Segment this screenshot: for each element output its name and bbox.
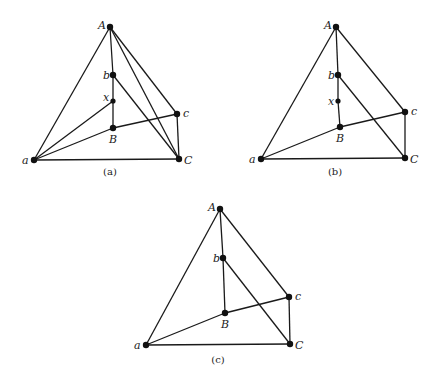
- node-c: [174, 111, 180, 117]
- edge-x-B: [338, 101, 340, 127]
- edge-A-b: [336, 27, 338, 75]
- node-label-x: x: [328, 95, 335, 108]
- edge-A-a: [146, 209, 220, 345]
- edge-b-C: [338, 75, 405, 158]
- node-C: [402, 155, 408, 161]
- node-label-c: c: [411, 105, 417, 118]
- edge-A-a: [261, 27, 336, 159]
- edge-a-B: [34, 128, 113, 160]
- node-label-a: a: [22, 154, 29, 167]
- node-a: [31, 157, 37, 163]
- diagram-panel-c: AbBcCa(c): [134, 201, 304, 365]
- node-a: [258, 156, 264, 162]
- node-B: [110, 125, 116, 131]
- panel-caption: (b): [328, 166, 342, 177]
- edge-a-B: [146, 313, 225, 345]
- node-label-B: B: [335, 132, 344, 145]
- edge-A-b: [220, 209, 223, 258]
- diagram-panel-a: AbxBcCa(a): [22, 19, 193, 177]
- node-label-B: B: [220, 318, 229, 331]
- node-B: [222, 310, 228, 316]
- node-label-c: c: [183, 107, 189, 120]
- node-label-A: A: [97, 19, 106, 32]
- node-label-a: a: [249, 153, 256, 166]
- node-label-C: C: [410, 153, 419, 166]
- node-C: [176, 156, 182, 162]
- node-label-C: C: [184, 154, 193, 167]
- panel-caption: (c): [211, 354, 225, 365]
- edge-B-c: [225, 297, 289, 313]
- node-c: [402, 109, 408, 115]
- edge-A-b: [110, 27, 113, 75]
- node-b: [220, 255, 226, 261]
- edge-b-C: [223, 258, 290, 344]
- node-b: [110, 72, 116, 78]
- edge-a-B: [261, 127, 340, 159]
- node-label-A: A: [207, 201, 216, 214]
- edge-b-B: [223, 258, 225, 313]
- node-B: [337, 124, 343, 130]
- edge-A-c: [110, 27, 177, 114]
- edge-B-c: [340, 112, 405, 127]
- edge-a-C: [34, 159, 179, 160]
- edge-b-C: [113, 75, 179, 159]
- node-b: [335, 72, 341, 78]
- node-A: [217, 206, 223, 212]
- edge-c-C: [177, 114, 179, 159]
- node-label-B: B: [108, 133, 117, 146]
- node-x: [335, 98, 340, 103]
- node-a: [143, 342, 149, 348]
- node-c: [286, 294, 292, 300]
- node-label-C: C: [295, 339, 304, 352]
- node-label-b: b: [103, 69, 110, 82]
- node-label-b: b: [328, 69, 335, 82]
- edge-a-C: [146, 344, 290, 345]
- node-label-x: x: [103, 91, 110, 104]
- edge-A-c: [336, 27, 405, 112]
- node-A: [107, 24, 113, 30]
- edge-A-a: [34, 27, 110, 160]
- node-label-a: a: [134, 339, 141, 352]
- edge-A-C: [110, 27, 179, 159]
- panel-caption: (a): [103, 166, 117, 177]
- node-A: [333, 24, 339, 30]
- graph-figure: AbxBcCa(a)AbxBcCa(b)AbBcCa(c): [0, 0, 435, 379]
- edge-c-C: [289, 297, 290, 344]
- node-label-b: b: [213, 252, 220, 265]
- edge-a-C: [261, 158, 405, 159]
- edge-A-c: [220, 209, 289, 297]
- edge-a-x: [34, 101, 113, 160]
- diagram-panel-b: AbxBcCa(b): [249, 19, 419, 177]
- node-label-A: A: [323, 19, 332, 32]
- node-x: [110, 98, 115, 103]
- node-label-c: c: [295, 290, 301, 303]
- node-C: [287, 341, 293, 347]
